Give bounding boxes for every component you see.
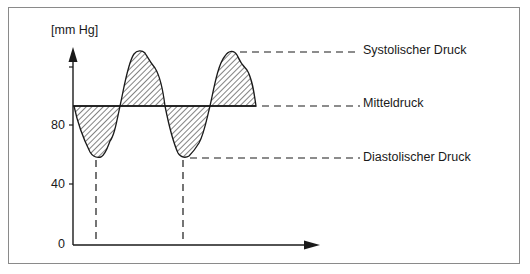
- systolic-label: Systolischer Druck: [363, 44, 467, 57]
- blood-pressure-diagram: [0, 0, 530, 274]
- pressure-waveform: [74, 51, 256, 157]
- mean-label: Mitteldruck: [363, 97, 423, 110]
- tick-label-0: 0: [35, 238, 65, 251]
- tick-label-40: 40: [35, 178, 65, 191]
- y-axis-arrow-icon: [69, 47, 78, 62]
- diastolic-label: Diastolischer Druck: [363, 151, 471, 164]
- y-axis-unit-label: [mm Hg]: [51, 24, 98, 37]
- x-axis-arrow-icon: [304, 241, 320, 250]
- tick-label-80: 80: [35, 119, 65, 132]
